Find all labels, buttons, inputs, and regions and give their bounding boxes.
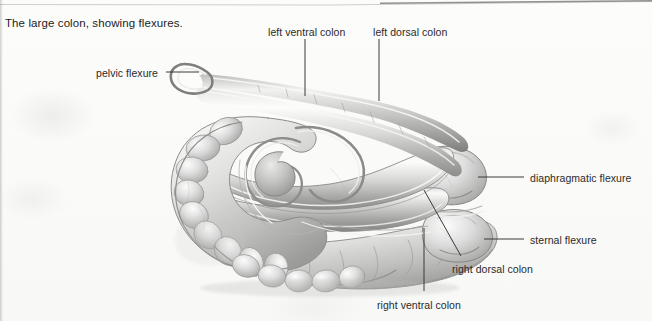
label-left-dorsal-colon: left dorsal colon <box>373 26 447 38</box>
figure-page: The large colon, showing flexures. pelvi… <box>0 0 652 321</box>
label-diaphragmatic-flexure: diaphragmatic flexure <box>530 172 631 184</box>
label-right-dorsal-colon: right dorsal colon <box>452 263 533 275</box>
leader-right-dorsal-colon <box>424 190 461 256</box>
label-right-ventral-colon: right ventral colon <box>377 299 461 311</box>
scan-edge-left <box>0 0 3 321</box>
figure-caption: The large colon, showing flexures. <box>5 17 183 29</box>
large-colon-illustration <box>0 0 652 321</box>
label-pelvic-flexure: pelvic flexure <box>96 67 158 79</box>
label-sternal-flexure: sternal flexure <box>530 234 597 246</box>
scan-edge-top <box>0 0 652 10</box>
leader-lines <box>0 0 652 321</box>
label-left-ventral-colon: left ventral colon <box>268 26 345 38</box>
scan-paper-texture <box>0 0 652 321</box>
